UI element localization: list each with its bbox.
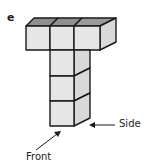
side-label: Side bbox=[119, 118, 141, 129]
column-front-cube-2 bbox=[50, 76, 74, 101]
front-label: Front bbox=[26, 151, 51, 162]
side-arrow-icon bbox=[89, 122, 115, 128]
column-front-cube-3 bbox=[50, 101, 74, 126]
front-arrow-icon bbox=[36, 131, 61, 150]
column-front-cube-1 bbox=[50, 50, 74, 76]
top-front-cube-1 bbox=[26, 26, 50, 50]
top-front-cube-2 bbox=[50, 26, 74, 50]
t-shape-cube-diagram bbox=[0, 0, 150, 167]
top-front-cube-3 bbox=[74, 26, 100, 50]
